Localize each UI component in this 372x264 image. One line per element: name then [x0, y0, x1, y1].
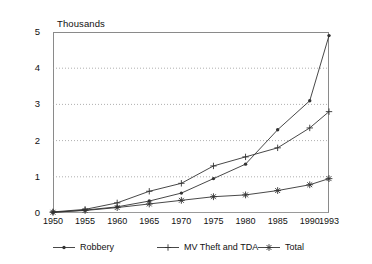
legend-label: MV Theft and TDA: [182, 242, 258, 252]
y-axis-tick-label: 1: [24, 171, 40, 182]
data-point-marker-dot: [212, 177, 215, 180]
legend-item[interactable]: MV Theft and TDA: [157, 242, 258, 252]
data-point-marker-dot: [180, 191, 183, 194]
data-point-marker-asterisk: [266, 244, 273, 251]
series-robbery: [51, 34, 330, 214]
data-point-marker-plus: [210, 163, 216, 169]
data-point-marker-plus: [146, 188, 152, 194]
legend-marker-dot-icon: [53, 243, 75, 252]
data-point-marker-asterisk: [306, 181, 313, 188]
legend-label: Total: [283, 242, 304, 252]
data-point-marker-asterisk: [210, 193, 217, 200]
y-axis-tick-label: 2: [24, 135, 40, 146]
y-axis-unit-label: Thousands: [57, 18, 105, 29]
data-point-marker-dot: [327, 34, 330, 37]
data-point-marker-asterisk: [178, 197, 185, 204]
data-point-marker-asterisk: [326, 175, 333, 182]
data-point-marker-dot: [308, 99, 311, 102]
legend-marker-plus-icon: [157, 243, 179, 252]
data-point-marker-dot: [62, 245, 65, 248]
data-point-marker-asterisk: [50, 209, 57, 216]
plot-series-layer: [53, 32, 329, 213]
data-point-marker-asterisk: [82, 207, 89, 214]
series-total: [50, 175, 333, 215]
legend-marker-asterisk-icon: [258, 243, 280, 252]
line-chart: Thousands 012345 19501955196019651970197…: [0, 0, 372, 264]
chart-legend: RobberyMV Theft and TDATotal: [53, 242, 329, 258]
data-point-marker-dot: [276, 128, 279, 131]
x-axis-tick-label: 1993: [310, 216, 348, 226]
data-point-marker-asterisk: [114, 204, 121, 211]
data-point-marker-asterisk: [242, 192, 249, 199]
data-point-marker-asterisk: [274, 187, 281, 194]
y-axis-tick-label: 5: [24, 26, 40, 37]
legend-label: Robbery: [78, 242, 114, 252]
y-axis-tick-label: 4: [24, 62, 40, 73]
data-point-marker-dot: [244, 162, 247, 165]
legend-item[interactable]: Robbery: [53, 242, 114, 252]
series-line: [53, 112, 329, 212]
data-point-marker-plus: [165, 244, 171, 250]
legend-item[interactable]: Total: [258, 242, 304, 252]
series-line: [53, 36, 329, 213]
data-point-marker-asterisk: [146, 201, 153, 208]
data-point-marker-plus: [178, 180, 184, 186]
data-point-marker-plus: [242, 154, 248, 160]
data-point-marker-plus: [274, 145, 280, 151]
y-axis-tick-label: 3: [24, 98, 40, 109]
